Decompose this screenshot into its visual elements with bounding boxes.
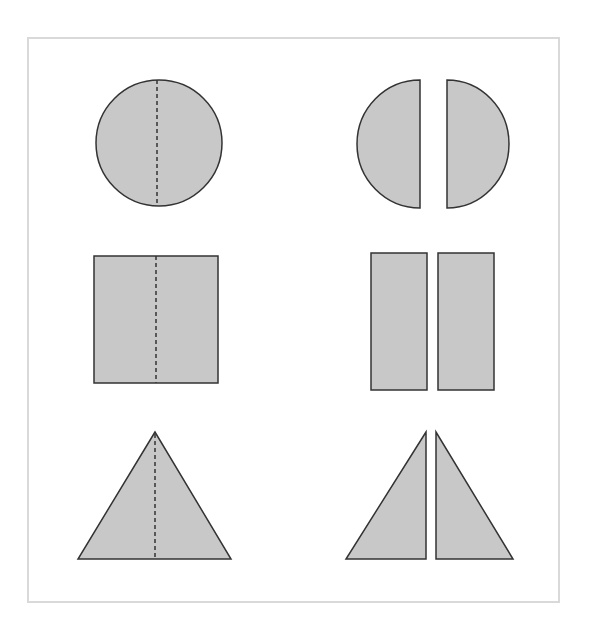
symmetry-diagram xyxy=(0,0,590,637)
circle-whole xyxy=(96,80,222,206)
triangle-whole xyxy=(78,432,231,559)
rectangle-left-half xyxy=(371,253,427,390)
rectangle-right-half xyxy=(438,253,494,390)
square-halves xyxy=(371,253,494,390)
circle-right-half xyxy=(447,80,509,208)
triangle-halves xyxy=(346,432,513,559)
triangle-left-half xyxy=(346,432,426,559)
triangle-right-half xyxy=(436,432,513,559)
square-whole xyxy=(94,256,218,383)
circle-halves xyxy=(357,80,509,208)
circle-left-half xyxy=(357,80,420,208)
